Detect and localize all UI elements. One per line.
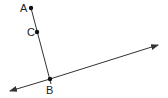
geometry-diagram: A C B [0, 0, 168, 98]
point-c [35, 30, 39, 34]
point-a [29, 6, 33, 10]
label-c: C [27, 26, 35, 38]
label-b: B [46, 84, 53, 96]
label-a: A [20, 2, 28, 14]
line-through-b-left [10, 79, 50, 91]
segment-ab [31, 8, 51, 84]
line-through-b [50, 45, 158, 79]
point-b [48, 77, 52, 81]
